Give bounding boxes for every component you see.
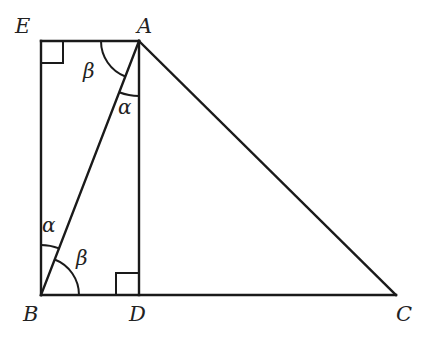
angle-label-beta-a: β: [82, 59, 95, 83]
point-label-b: B: [22, 302, 38, 326]
segment-ac: [139, 41, 396, 295]
geometry-diagram: E A B D C β α α β: [0, 0, 436, 343]
point-label-d: D: [128, 302, 146, 326]
point-label-a: A: [135, 14, 152, 38]
point-label-c: C: [396, 302, 412, 326]
point-label-e: E: [14, 14, 30, 38]
right-angle-mark-d: [116, 273, 139, 295]
right-angle-mark-e: [41, 41, 63, 63]
angle-label-alpha-a: α: [118, 95, 132, 119]
angle-label-beta-b: β: [75, 246, 88, 270]
angle-label-alpha-b: α: [42, 213, 56, 237]
angle-arc-beta-a: [101, 41, 125, 77]
angle-arc-alpha-b: [41, 245, 59, 248]
